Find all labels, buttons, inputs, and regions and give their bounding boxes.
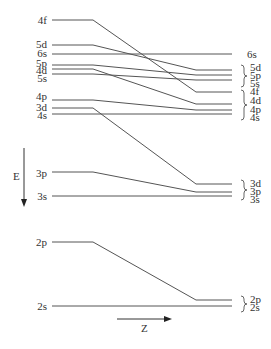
left-label-2s: 2s — [37, 300, 47, 312]
z-axis-label: Z — [141, 322, 148, 334]
right-label-6s: 6s — [247, 48, 257, 60]
brace-n3-icon — [241, 180, 247, 200]
right-label-2s: 2s — [250, 301, 260, 313]
left-label-5s: 5s — [37, 72, 47, 84]
level-lines — [52, 20, 232, 306]
left-labels: 4f 5d 6s 5p 4d 5s 4p 3d 4s 3p 3s 2p 2s — [36, 14, 48, 312]
brace-n5-icon — [241, 65, 247, 87]
right-label-4s: 4s — [250, 111, 260, 123]
energy-axis-label: E — [13, 170, 20, 182]
arrow-right-icon — [164, 316, 172, 322]
right-label-3s: 3s — [250, 193, 260, 205]
level-line-5d — [52, 45, 232, 70]
level-line-4f — [52, 20, 232, 92]
left-label-4f: 4f — [38, 14, 48, 26]
left-label-4s: 4s — [37, 109, 47, 121]
left-label-2p: 2p — [36, 236, 48, 248]
z-axis: Z — [117, 316, 172, 334]
level-line-3d — [52, 108, 232, 184]
level-line-2p — [52, 242, 232, 300]
shell-braces — [241, 65, 247, 312]
left-label-3s: 3s — [37, 190, 47, 202]
energy-level-diagram: 4f 5d 6s 5p 4d 5s 4p 3d 4s 3p 3s 2p 2s 6… — [0, 0, 271, 349]
brace-n4-icon — [241, 90, 247, 120]
arrow-down-icon — [21, 199, 27, 207]
level-line-3p — [52, 172, 232, 192]
energy-axis: E — [13, 148, 27, 207]
left-label-3p: 3p — [36, 167, 48, 179]
right-labels: 6s 5d 5p 5s 4f 4d 4p 4s 3d 3p 3s 2p 2s — [247, 48, 262, 313]
brace-n2-icon — [241, 296, 247, 312]
